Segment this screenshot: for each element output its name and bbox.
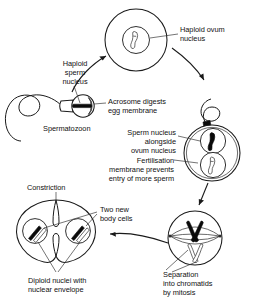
label-separation-mitosis: Separation into chromatids by mitosis	[163, 270, 212, 298]
flow-arrow-3-head	[199, 199, 204, 205]
fertilised-sperm-tail	[201, 99, 220, 122]
label-constriction: Constriction	[27, 183, 65, 192]
stage-mitosis	[166, 211, 222, 272]
spindle-pole-right	[219, 235, 222, 238]
flow-arrow-4-line	[110, 233, 168, 243]
spindle-pole-left	[169, 235, 172, 238]
sperm-midpiece	[60, 100, 73, 112]
flow-arrow-2-line	[172, 48, 204, 80]
label-sperm-alongside-ovum: Sperm nucleus alongside ovum nucleus	[88, 128, 176, 156]
label-spermatozoon: Spermatozoon	[43, 124, 90, 133]
label-haploid-sperm-nucleus: Haploid sperm nucleus	[48, 59, 102, 87]
flow-ovum-to-fertilised	[172, 48, 204, 80]
stage-ovum	[105, 9, 178, 71]
label-haploid-ovum-nucleus: Haploid ovum nucleus	[180, 25, 225, 43]
stage-two-cell	[17, 192, 97, 272]
flow-arrow-4-head	[110, 232, 116, 237]
label-acrosome: Acrosome digests egg membrane	[108, 97, 166, 115]
acrosome-label-leader	[94, 103, 106, 104]
label-diploid-nuclei: Diploid nuclei with nuclear envelope	[28, 276, 86, 294]
sperm-tail	[5, 95, 62, 141]
flow-mitosis-to-twocell	[110, 232, 168, 243]
sperm-nucleus	[73, 104, 92, 107]
label-two-new-body-cells: Two new body cells	[100, 205, 132, 223]
flow-fertilised-to-mitosis	[199, 183, 208, 205]
stage-fertilised-egg	[174, 99, 240, 181]
label-fertilisation-membrane: Fertilisation membrane prevents entry of…	[64, 156, 174, 184]
